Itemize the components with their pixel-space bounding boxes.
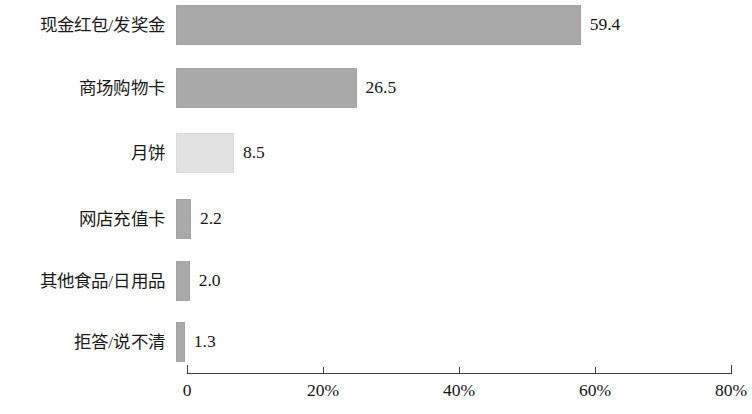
category-label: 现金红包/发奖金: [0, 16, 176, 34]
x-axis-line: [187, 373, 732, 374]
bar-track: 2.2: [176, 199, 752, 239]
chart-row: 拒答/说不清 1.3: [0, 322, 752, 362]
x-axis-tick: [187, 365, 188, 374]
category-label: 其他食品/日用品: [0, 272, 176, 290]
value-label: 8.5: [243, 144, 265, 162]
x-axis-tick-label: 0: [183, 382, 192, 400]
x-axis-tick: [595, 367, 596, 374]
x-axis-tick-label: 60%: [579, 382, 611, 400]
category-label: 商场购物卡: [0, 79, 176, 97]
bar-track: 26.5: [176, 68, 752, 108]
bar: [176, 261, 190, 301]
chart-row: 商场购物卡 26.5: [0, 68, 752, 108]
chart-row: 网店充值卡 2.2: [0, 199, 752, 239]
category-label: 拒答/说不清: [0, 333, 176, 351]
value-label: 26.5: [366, 79, 397, 97]
x-axis-tick-label: 80%: [715, 382, 747, 400]
x-axis-tick: [731, 365, 732, 374]
chart-row: 月饼 8.5: [0, 133, 752, 173]
value-label: 1.3: [194, 333, 216, 351]
x-axis-tick: [323, 367, 324, 374]
category-label: 月饼: [0, 144, 176, 162]
chart-row: 其他食品/日用品 2.0: [0, 261, 752, 301]
x-axis-tick-label: 20%: [307, 382, 339, 400]
bar-track: 1.3: [176, 322, 752, 362]
value-label: 59.4: [590, 16, 621, 34]
bar: [176, 199, 191, 239]
chart-row: 现金红包/发奖金 59.4: [0, 5, 752, 45]
bar-track: 2.0: [176, 261, 752, 301]
bar: [176, 68, 357, 108]
bar: [176, 322, 185, 362]
x-axis-tick-label: 40%: [443, 382, 475, 400]
value-label: 2.2: [200, 210, 222, 228]
bar: [176, 133, 234, 173]
x-axis-tick: [459, 367, 460, 374]
bar-chart-figure: 现金红包/发奖金 59.4 商场购物卡 26.5 月饼 8.5 网店充值卡: [0, 0, 752, 414]
value-label: 2.0: [199, 272, 221, 290]
bar: [176, 5, 581, 45]
category-label: 网店充值卡: [0, 210, 176, 228]
bar-track: 59.4: [176, 5, 752, 45]
bar-track: 8.5: [176, 133, 752, 173]
